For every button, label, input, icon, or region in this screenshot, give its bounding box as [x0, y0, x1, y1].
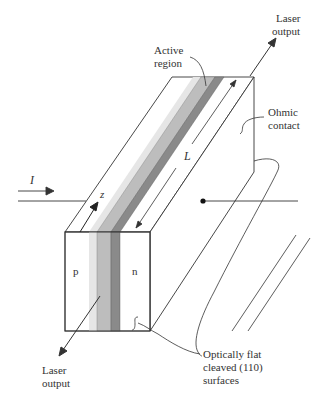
- laser-output-top-line1: Laser: [276, 12, 301, 24]
- active-region-line1: Active: [154, 44, 183, 56]
- ohmic-contact-line2: contact: [268, 119, 300, 131]
- ohmic-contact-lines: [232, 235, 310, 331]
- z-axis-label: z: [99, 188, 105, 200]
- laser-output-bottom-line2: output: [42, 377, 70, 389]
- cleaved-surfaces-line1: Optically flat: [203, 348, 261, 360]
- p-region-label: p: [73, 265, 79, 277]
- laser-output-top-arrow: [250, 38, 276, 76]
- laser-output-top-line2: output: [272, 25, 300, 37]
- laser-output-bottom-line1: Laser: [42, 364, 67, 376]
- current-label: I: [29, 173, 35, 187]
- ohmic-contact-line1: Ohmic: [268, 106, 298, 118]
- n-region-label: n: [132, 265, 138, 277]
- cleaved-surfaces-line2: cleaved (110): [203, 361, 263, 374]
- length-label: L: [183, 149, 191, 163]
- cleaved-surface-leader-short: [138, 323, 200, 354]
- front-face: [65, 232, 150, 331]
- laser-diode-diagram: L z I Laser output Active region Ohmic c…: [0, 0, 318, 401]
- active-region-line2: region: [154, 57, 183, 69]
- cleaved-surfaces-line3: surfaces: [203, 374, 239, 386]
- current-arrow: [18, 187, 86, 201]
